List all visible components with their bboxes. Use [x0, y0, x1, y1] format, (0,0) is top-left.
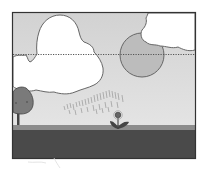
scribble-mark [28, 158, 60, 168]
landscape-illustration [0, 0, 208, 170]
ground [13, 130, 195, 158]
